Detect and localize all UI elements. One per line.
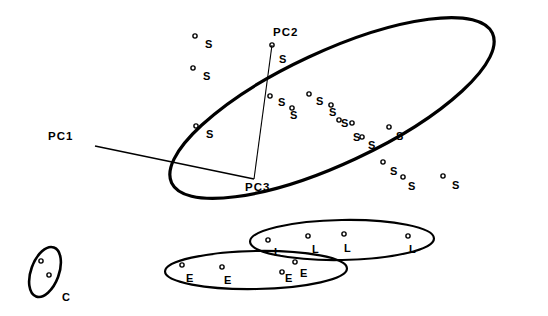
data-point-marker [220, 265, 224, 269]
axis-label-pc3: PC3 [245, 182, 270, 194]
data-point-marker [387, 125, 391, 129]
pca-ordination-figure: SSSSSSSSSSSSSSSLLLLEEEE PC1PC2PC3 C [0, 0, 548, 316]
axis-line-layer [95, 45, 272, 179]
data-point-label: E [186, 273, 193, 284]
data-point-marker [280, 270, 284, 274]
data-point-label: S [206, 129, 213, 140]
data-point-marker [360, 135, 364, 139]
data-point-marker [268, 94, 272, 98]
data-point-marker [342, 232, 346, 236]
data-point-marker [406, 234, 410, 238]
data-point-marker-layer [39, 34, 445, 277]
data-point-label: S [408, 181, 415, 192]
data-point-marker [39, 259, 43, 263]
axis-line-pc1 [95, 146, 254, 179]
data-point-label: S [278, 97, 285, 108]
plot-canvas [0, 0, 548, 316]
group-label-control-group: C [62, 292, 70, 303]
data-point-marker [441, 174, 445, 178]
data-point-marker [381, 160, 385, 164]
data-point-label: S [290, 110, 297, 121]
data-point-marker [266, 238, 270, 242]
data-point-label: S [279, 54, 286, 65]
data-point-marker [191, 66, 195, 70]
data-point-label: S [341, 118, 348, 129]
data-point-label: L [409, 244, 416, 255]
data-point-label: S [329, 107, 336, 118]
data-point-marker [193, 34, 197, 38]
data-point-label: S [205, 39, 212, 50]
data-point-marker [307, 92, 311, 96]
data-point-marker [47, 273, 51, 277]
data-point-label: S [203, 71, 210, 82]
data-point-marker [194, 124, 198, 128]
data-point-label: S [452, 180, 459, 191]
group-ellipse-early-group [165, 249, 348, 290]
data-point-label: S [390, 166, 397, 177]
axis-line-pc2 [254, 45, 272, 179]
data-point-marker [306, 234, 310, 238]
data-point-marker [293, 260, 297, 264]
data-point-label: S [396, 131, 403, 142]
data-point-label: E [300, 268, 307, 279]
data-point-label: L [312, 244, 319, 255]
data-point-label: E [285, 273, 292, 284]
data-point-label: S [316, 96, 323, 107]
data-point-label: S [368, 140, 375, 151]
data-point-label: L [274, 247, 281, 258]
group-ellipse-control-group [23, 243, 67, 301]
axis-label-pc1: PC1 [48, 131, 73, 143]
data-point-label: E [224, 275, 231, 286]
data-point-label: L [344, 243, 351, 254]
axis-label-pc2: PC2 [273, 27, 298, 39]
data-point-marker [180, 263, 184, 267]
data-point-label: S [353, 132, 360, 143]
data-point-marker [350, 121, 354, 125]
data-point-marker [401, 175, 405, 179]
